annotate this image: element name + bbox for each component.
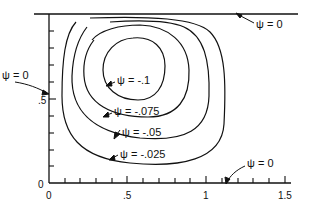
x-tick-0: 0	[46, 190, 52, 201]
label-psi-bottom: ψ = 0	[247, 157, 274, 169]
contours	[62, 17, 225, 164]
x-ticks	[65, 176, 285, 183]
label-psi-top: ψ = 0	[256, 18, 283, 30]
x-tick-1-5: 1.5	[278, 190, 292, 201]
label-psi-minus-0-025: ψ = -.025	[120, 148, 165, 160]
x-tick-0-5: .5	[123, 190, 132, 201]
y-ticks	[49, 31, 56, 166]
label-psi-minus-0-1: ψ = -.1	[117, 74, 150, 86]
label-psi-minus-0-075: ψ = -.075	[114, 105, 159, 117]
y-tick-0-5: .5	[38, 95, 47, 106]
y-tick-0: 0	[38, 179, 44, 190]
contour-psi-minus-0-1	[103, 38, 165, 100]
x-tick-1: 1	[203, 190, 209, 201]
label-psi-left: ψ = 0	[2, 69, 29, 81]
contour-plot: 0 .5 1 1.5 0 .5 ψ =	[0, 0, 310, 206]
contour-psi-minus-0-025	[62, 17, 225, 164]
contour-psi-minus-0-075	[84, 25, 189, 117]
label-psi-minus-0-05: ψ = -.05	[122, 126, 161, 138]
